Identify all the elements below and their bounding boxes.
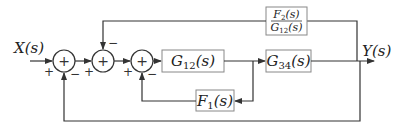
input-label: X(s) [13, 39, 44, 57]
sign-s3-left: + [123, 65, 133, 79]
f2-feedback-out-line [103, 21, 266, 49]
block-diagram: X(s) + + − + + − + + − G12(s) G34(s) [0, 0, 401, 129]
output-label: Y(s) [362, 42, 391, 60]
svg-text:F1(s): F1(s) [196, 92, 233, 111]
block-f1: F1(s) [196, 90, 234, 111]
block-g12: G12(s) [162, 50, 224, 72]
block-f2-over-g12: F2(s) G12(s) [266, 7, 307, 35]
svg-text:+: + [58, 53, 70, 69]
sign-s1-bottom: − [70, 67, 80, 81]
sign-s2-top: − [108, 36, 118, 50]
summing-junction-3: + + − [123, 50, 157, 81]
sign-s1-left: + [44, 65, 54, 79]
svg-text:F2(s): F2(s) [272, 8, 299, 22]
f2-feedback-in-line [307, 21, 357, 61]
summing-junction-2: + + − [84, 36, 118, 79]
svg-text:+: + [97, 53, 109, 69]
f1-feedback-in-line [235, 61, 253, 101]
sign-s2-left: + [84, 65, 94, 79]
block-g34: G34(s) [266, 50, 311, 72]
sign-s3-bottom: − [147, 67, 157, 81]
summing-junction-1: + + − [44, 50, 80, 81]
